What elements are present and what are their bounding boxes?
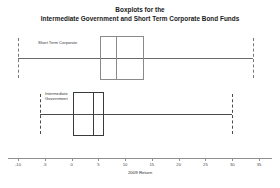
x-axis-tick-label: 20 <box>176 162 181 167</box>
x-axis-tick <box>152 158 153 161</box>
x-axis-tick <box>179 158 180 161</box>
x-axis-tick <box>205 158 206 161</box>
box-intermediate-government <box>73 92 104 136</box>
median-line-short-term-corporate <box>116 37 117 79</box>
x-axis-tick-label: 0 <box>70 162 72 167</box>
x-axis-tick-label: -10 <box>15 162 21 167</box>
x-axis-tick <box>232 158 233 161</box>
x-axis-tick-label: 5 <box>97 162 99 167</box>
whisker-cap-high-intermediate-government <box>232 94 233 134</box>
x-axis-tick <box>72 158 73 161</box>
x-axis: -10-505101520253035 2009 Return <box>0 158 280 188</box>
whisker-line-intermediate-government <box>40 114 232 115</box>
box-short-term-corporate <box>100 36 144 80</box>
median-line-intermediate-government <box>93 93 94 135</box>
plot-area: Short Term Corporate Intermediate Govern… <box>0 28 280 156</box>
series-label-intermediate-government: Intermediate Government <box>45 91 68 101</box>
chart-title: Boxplots for the Intermediate Government… <box>0 5 280 23</box>
x-axis-tick <box>259 158 260 161</box>
chart-title-line-2: Intermediate Government and Short Term C… <box>0 14 280 23</box>
boxplot-chart: Boxplots for the Intermediate Government… <box>0 0 280 188</box>
boxplot-series-short-term-corporate: Short Term Corporate <box>0 34 280 82</box>
x-axis-tick <box>18 158 19 161</box>
whisker-cap-low-intermediate-government <box>40 94 41 134</box>
x-axis-tick <box>45 158 46 161</box>
chart-title-line-1: Boxplots for the <box>0 5 280 14</box>
x-axis-tick <box>125 158 126 161</box>
x-axis-tick-label: -5 <box>43 162 47 167</box>
series-label-short-term-corporate: Short Term Corporate <box>38 40 77 45</box>
x-axis-tick-label: 25 <box>203 162 208 167</box>
boxplot-series-intermediate-government: Intermediate Government <box>0 90 280 138</box>
x-axis-tick-label: 30 <box>230 162 235 167</box>
whisker-cap-low-short-term-corporate <box>18 38 19 78</box>
x-axis-tick-label: 10 <box>123 162 128 167</box>
x-axis-label: 2009 Return <box>0 170 280 175</box>
x-axis-tick-label: 15 <box>150 162 155 167</box>
x-axis-tick <box>98 158 99 161</box>
whisker-cap-high-short-term-corporate <box>253 38 254 78</box>
x-axis-tick-label: 35 <box>257 162 262 167</box>
